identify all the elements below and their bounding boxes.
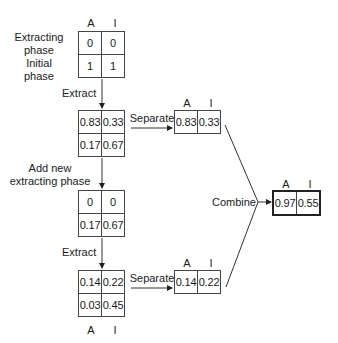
table-after-add-phase: 0 0 0.17 0.67 — [78, 190, 125, 237]
label-line: extracting phase — [2, 175, 98, 188]
cell: 0.83 — [79, 111, 102, 134]
column-label-i: I — [298, 178, 322, 190]
cell: 0.33 — [102, 111, 125, 134]
step-label-extract-1: Extract — [62, 87, 102, 100]
label-line: phase — [3, 70, 75, 83]
cell: 0.97 — [273, 191, 297, 215]
table-row: 0.83 0.33 — [79, 111, 125, 134]
step-label-add-new-phase: Add new extracting phase — [2, 162, 98, 188]
table-row: 0.83 0.33 — [175, 111, 221, 134]
table-row: 0.17 0.67 — [79, 214, 125, 237]
table-row: 0.03 0.45 — [79, 294, 125, 317]
cell: 0.83 — [175, 111, 198, 134]
cell: 0.33 — [198, 111, 221, 134]
cell: 0.45 — [102, 294, 125, 317]
table-row: 0.97 0.55 — [273, 191, 320, 215]
cell: 0 — [102, 32, 125, 55]
label-line: Add new — [2, 162, 98, 175]
table-separated-2: 0.14 0.22 — [174, 270, 221, 294]
table-row: 0.14 0.22 — [79, 271, 125, 294]
column-label-a: A — [274, 178, 298, 190]
column-label-i: I — [199, 97, 223, 109]
table-row: 0 0 — [79, 191, 125, 214]
row-label-initial-phase: Initial phase — [3, 57, 75, 83]
cell: 0.55 — [297, 191, 321, 215]
step-label-separate-1: Separate — [129, 112, 175, 125]
column-label-a: A — [175, 257, 199, 269]
cell: 1 — [79, 55, 102, 78]
table-after-extract-1: 0.83 0.33 0.17 0.67 — [78, 110, 125, 157]
table-row: 0 0 — [79, 32, 125, 55]
column-label-i: I — [103, 324, 127, 336]
cell: 0.22 — [102, 271, 125, 294]
cell: 1 — [102, 55, 125, 78]
cell: 0.03 — [79, 294, 102, 317]
table-row: 1 1 — [79, 55, 125, 78]
row-label-extracting-phase: Extracting phase — [3, 31, 75, 57]
cell: 0.67 — [102, 134, 125, 157]
cell: 0.22 — [198, 271, 221, 294]
label-line: Initial — [3, 57, 75, 70]
table-separated-1: 0.83 0.33 — [174, 110, 221, 134]
label-line: phase — [3, 44, 75, 57]
column-label-i: I — [199, 257, 223, 269]
label-line: Extracting — [3, 31, 75, 44]
table-after-extract-2: 0.14 0.22 0.03 0.45 — [78, 270, 125, 317]
table-row: 0.17 0.67 — [79, 134, 125, 157]
step-label-combine: Combine — [210, 196, 256, 209]
cell: 0 — [102, 191, 125, 214]
combine-line-top — [225, 125, 258, 202]
column-label-a: A — [175, 97, 199, 109]
column-label-a: A — [79, 324, 103, 336]
cell: 0.14 — [175, 271, 198, 294]
cell: 0.67 — [102, 214, 125, 237]
cell: 0.17 — [79, 134, 102, 157]
cell: 0 — [79, 32, 102, 55]
table-row: 0.14 0.22 — [175, 271, 221, 294]
cell: 0.14 — [79, 271, 102, 294]
column-label-a: A — [79, 17, 103, 29]
step-label-extract-2: Extract — [62, 246, 102, 259]
column-label-i: I — [103, 17, 127, 29]
table-initial: 0 0 1 1 — [78, 31, 125, 78]
cell: 0 — [79, 191, 102, 214]
table-combined: 0.97 0.55 — [272, 190, 321, 216]
combine-line-bottom — [226, 202, 258, 287]
step-label-separate-2: Separate — [129, 272, 175, 285]
cell: 0.17 — [79, 214, 102, 237]
